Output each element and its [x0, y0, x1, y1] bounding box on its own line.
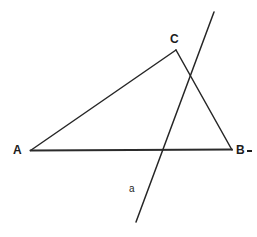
triangle-side-ac [31, 50, 177, 151]
vertex-label-a: A [13, 144, 22, 156]
vertex-label-b: B [236, 144, 245, 156]
figure-canvas [0, 0, 257, 237]
geometry-figure: A C B a [0, 0, 257, 237]
triangle-side-ab [31, 150, 233, 151]
line-label-a: a [129, 184, 135, 194]
vertex-label-c: C [170, 33, 179, 45]
period-mark-icon [247, 150, 252, 152]
triangle-abc [31, 50, 233, 151]
triangle-side-cb [176, 50, 232, 150]
